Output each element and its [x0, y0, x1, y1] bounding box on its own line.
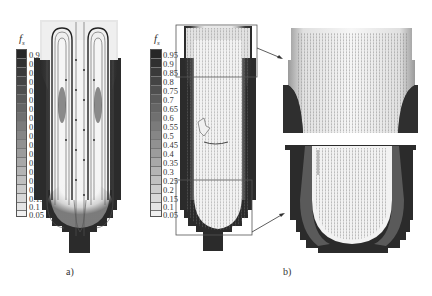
casting-b-vectors — [0, 0, 432, 296]
zoom-panel-bottom — [285, 145, 416, 253]
zoom-panel-top — [283, 28, 418, 133]
panel-b-label: b) — [283, 266, 291, 277]
